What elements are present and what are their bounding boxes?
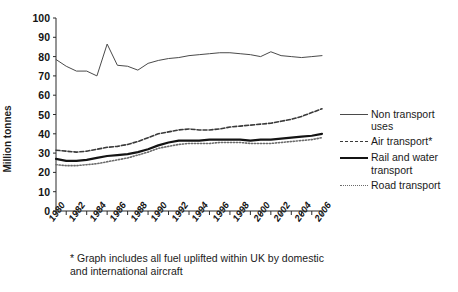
legend-item-non-transport-uses: Non transportuses: [340, 108, 458, 132]
series-line-road-transport: [56, 138, 322, 166]
chart-figure: Million tonnes 0102030405060708090100 19…: [0, 0, 458, 292]
legend-label-air-transport: Air transport*: [371, 135, 458, 147]
series-line-non-transport-uses: [56, 44, 322, 76]
legend-label-rail-and-water-transport: Rail and watertransport: [371, 151, 458, 175]
legend-item-rail-and-water-transport: Rail and watertransport: [340, 151, 458, 175]
legend-label-non-transport-uses: Non transportuses: [371, 108, 458, 132]
series-line-air-transport: [56, 109, 322, 152]
chart-legend: Non transportuses Air transport* Rail an…: [340, 108, 458, 195]
footnote-line-2: and international aircraft: [70, 265, 400, 278]
legend-item-road-transport: Road transport: [340, 179, 458, 192]
legend-swatch-road-transport: [340, 185, 368, 186]
legend-item-air-transport: Air transport*: [340, 135, 458, 148]
legend-swatch-non-transport-uses: [340, 114, 368, 115]
legend-swatch-air-transport: [340, 141, 368, 142]
legend-swatch-rail-and-water-transport: [340, 157, 368, 159]
legend-label-road-transport: Road transport: [371, 179, 458, 191]
footnote-line-1: * Graph includes all fuel uplifted withi…: [70, 252, 400, 265]
chart-footnote: * Graph includes all fuel uplifted withi…: [70, 252, 400, 278]
series-line-rail-and-water-transport: [56, 134, 322, 161]
